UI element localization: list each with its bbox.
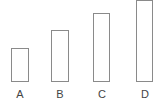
bar-d (136, 0, 153, 82)
bar-label-a: A (10, 88, 30, 100)
bar-b (51, 30, 69, 82)
bar-c (93, 13, 110, 82)
bar-label-b: B (50, 88, 70, 100)
bar-label-d: D (135, 88, 155, 100)
bar-a (11, 48, 29, 82)
bar-label-c: C (92, 88, 112, 100)
